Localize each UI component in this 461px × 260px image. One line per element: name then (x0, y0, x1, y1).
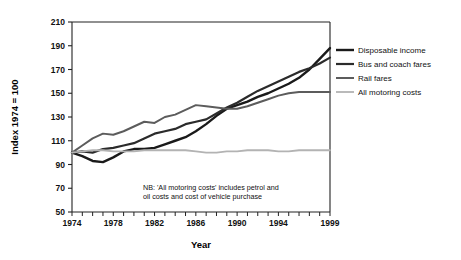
y-tick-label: 130 (51, 112, 65, 122)
chart-figure: 507090110130150170190210 197419781982198… (0, 0, 461, 260)
chart-legend: Disposable incomeBus and coach faresRail… (336, 46, 431, 97)
y-axis-ticks: 507090110130150170190210 (51, 17, 72, 217)
y-tick-label: 90 (56, 160, 66, 170)
series-line-2 (72, 92, 330, 153)
y-tick-label: 50 (56, 207, 66, 217)
y-tick-label: 150 (51, 88, 65, 98)
x-tick-label: 1978 (104, 218, 123, 228)
y-tick-label: 190 (51, 41, 65, 51)
y-tick-label: 70 (56, 183, 66, 193)
legend-label-1: Bus and coach fares (358, 60, 431, 69)
x-tick-label: 1990 (228, 218, 247, 228)
x-tick-label: 1986 (186, 218, 205, 228)
y-axis-title: Index 1974 = 100 (9, 79, 20, 154)
y-tick-label: 170 (51, 65, 65, 75)
legend-label-2: Rail fares (358, 74, 392, 83)
legend-label-3: All motoring costs (358, 88, 421, 97)
x-tick-label: 1999 (321, 218, 340, 228)
x-tick-label: 1974 (63, 218, 82, 228)
note-line-1: oil costs and cost of vehicle purchase (143, 192, 262, 201)
legend-label-0: Disposable income (358, 46, 426, 55)
note-line-0: NB: 'All motoring costs' includes petrol… (143, 183, 279, 192)
x-tick-label: 1994 (269, 218, 288, 228)
chart-note: NB: 'All motoring costs' includes petrol… (143, 183, 279, 201)
series-line-3 (72, 150, 330, 152)
x-tick-label: 1982 (145, 218, 164, 228)
x-axis-title: Year (191, 239, 211, 250)
x-axis-ticks: 1974197819821986199019941999 (63, 212, 340, 228)
data-series-layer (72, 48, 330, 162)
line-chart: 507090110130150170190210 197419781982198… (0, 0, 461, 260)
y-tick-label: 210 (51, 17, 65, 27)
y-tick-label: 110 (51, 136, 65, 146)
